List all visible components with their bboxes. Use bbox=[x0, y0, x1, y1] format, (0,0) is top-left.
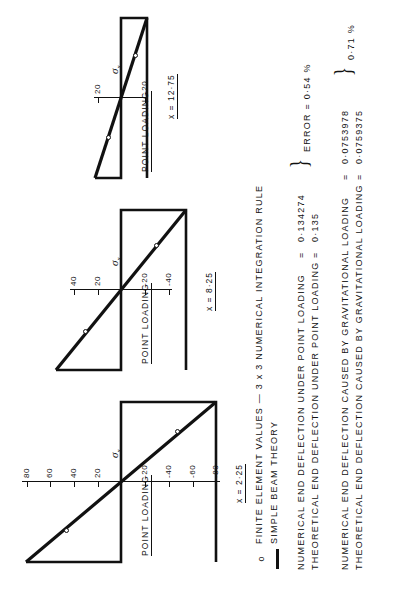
panel-x-12-75: 20 -20 σx POINT LOADING x = 12·75 bbox=[18, 10, 224, 186]
result-equals: = bbox=[340, 173, 350, 180]
result-label: NUMERICAL END DEFLECTION CAUSED BY GRAVI… bbox=[340, 197, 350, 570]
tick bbox=[169, 481, 170, 487]
panel-title: POINT LOADING bbox=[140, 91, 152, 172]
legend: o FINITE ELEMENT VALUES — 3 x 3 NUMERICA… bbox=[254, 90, 284, 570]
data-point-marker bbox=[175, 429, 180, 434]
sigma-glyph: σ bbox=[108, 69, 120, 74]
panel-title: POINT LOADING bbox=[140, 283, 152, 364]
brace-icon: } bbox=[292, 158, 306, 168]
sigma-subscript: x bbox=[115, 257, 123, 261]
tick-label: 80 bbox=[22, 460, 31, 478]
panel-title: POINT LOADING bbox=[140, 475, 152, 556]
sigma-subscript: x bbox=[115, 65, 123, 69]
result-value: 0·0753978 bbox=[340, 110, 350, 164]
tick bbox=[27, 481, 28, 487]
result-label: NUMERICAL END DEFLECTION UNDER POINT LOA… bbox=[296, 274, 306, 570]
axis-vertical-2 bbox=[70, 289, 172, 290]
error-value: 0·54 % bbox=[302, 63, 312, 99]
legend-row-beam-theory: SIMPLE BEAM THEORY bbox=[269, 90, 284, 570]
result-label: THEORETICAL END DEFLECTION UNDER POINT L… bbox=[310, 261, 320, 570]
error-readout: 0·71 % bbox=[346, 24, 356, 60]
circle-marker-icon: o bbox=[256, 548, 266, 570]
tick bbox=[98, 97, 99, 103]
panel-x-value: x = 12·75 bbox=[166, 74, 178, 119]
error-value: 0·71 % bbox=[346, 24, 356, 60]
panel-x-value: x = 2·25 bbox=[234, 464, 246, 503]
data-point-marker bbox=[64, 528, 69, 533]
sigma-glyph: σ bbox=[108, 453, 120, 458]
result-value: 0·0759375 bbox=[354, 110, 364, 164]
error-label: ERROR = bbox=[302, 103, 312, 152]
data-point-marker bbox=[106, 135, 111, 140]
axis-label-sigma-x-3: σx bbox=[108, 65, 123, 74]
panel-x-2-25: 80 60 40 20 -20 -40 -60 -80 σx POINT LOA… bbox=[18, 394, 224, 570]
tick bbox=[98, 481, 99, 487]
tick bbox=[98, 289, 99, 295]
result-equals: = bbox=[310, 251, 320, 258]
figure-canvas: 80 60 40 20 -20 -40 -60 -80 σx POINT LOA… bbox=[0, 0, 394, 592]
result-equals: = bbox=[296, 251, 306, 258]
axis-label-sigma-x-2: σx bbox=[108, 257, 123, 266]
sigma-subscript: x bbox=[115, 449, 123, 453]
legend-label: SIMPLE BEAM THEORY bbox=[269, 421, 279, 544]
tick bbox=[74, 481, 75, 487]
tick-label: 40 bbox=[69, 460, 78, 478]
result-label: THEORETICAL END DEFLECTION CAUSED BY GRA… bbox=[354, 184, 364, 570]
plot-outline-3 bbox=[18, 10, 224, 186]
tick-label: 40 bbox=[69, 268, 78, 286]
tick bbox=[216, 481, 217, 487]
results-point-loading: NUMERICAL END DEFLECTION UNDER POINT LOA… bbox=[296, 90, 324, 570]
axis-label-sigma-x-1: σx bbox=[108, 449, 123, 458]
panel-x-8-25: 40 20 -20 -40 σx POINT LOADING x = 8·25 bbox=[18, 202, 224, 378]
figure: 80 60 40 20 -20 -40 -60 -80 σx POINT LOA… bbox=[0, 0, 394, 592]
tick bbox=[193, 481, 194, 487]
tick-label: 20 bbox=[93, 460, 102, 478]
results-gravitational-loading: NUMERICAL END DEFLECTION CAUSED BY GRAVI… bbox=[340, 90, 368, 570]
tick-label: 20 bbox=[93, 268, 102, 286]
result-row: THEORETICAL END DEFLECTION CAUSED BY GRA… bbox=[354, 90, 368, 570]
data-point-marker bbox=[83, 329, 88, 334]
plot-outline-2 bbox=[18, 202, 224, 378]
tick bbox=[74, 289, 75, 295]
result-equals: = bbox=[354, 173, 364, 180]
tick-label: -60 bbox=[188, 456, 197, 478]
tick-label: -40 bbox=[164, 456, 173, 478]
result-value: 0·134274 bbox=[296, 194, 306, 242]
data-point-marker bbox=[154, 243, 159, 248]
data-point-marker bbox=[133, 53, 138, 58]
brace-icon: } bbox=[336, 66, 350, 76]
panel-x-value: x = 8·25 bbox=[204, 272, 216, 311]
tick-label: 20 bbox=[93, 76, 102, 94]
tick bbox=[169, 289, 170, 295]
legend-row-finite-element: o FINITE ELEMENT VALUES — 3 x 3 NUMERICA… bbox=[254, 90, 269, 570]
line-marker-icon bbox=[276, 549, 279, 569]
error-readout: ERROR = 0·54 % bbox=[302, 63, 312, 152]
axis-vertical-1 bbox=[22, 481, 220, 482]
legend-label: FINITE ELEMENT VALUES — 3 x 3 NUMERICAL … bbox=[254, 185, 264, 544]
tick-label: -40 bbox=[164, 264, 173, 286]
result-value: 0·135 bbox=[310, 213, 320, 242]
tick bbox=[50, 481, 51, 487]
tick-label: 60 bbox=[45, 460, 54, 478]
tick-label: -80 bbox=[211, 456, 220, 478]
sigma-glyph: σ bbox=[108, 261, 120, 266]
result-row: NUMERICAL END DEFLECTION CAUSED BY GRAVI… bbox=[340, 90, 354, 570]
